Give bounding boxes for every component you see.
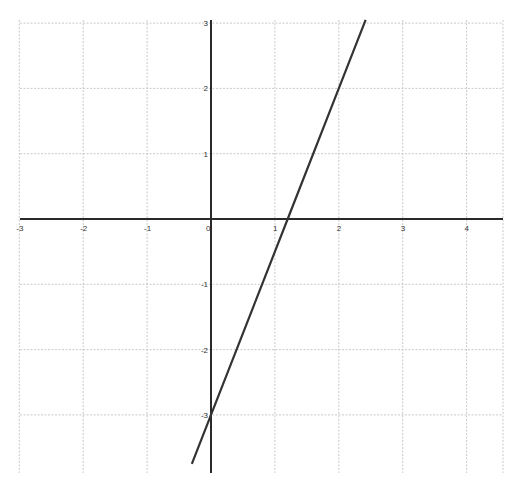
axes [20,20,503,473]
y-tick-label: 1 [204,150,209,159]
y-tick-label: -3 [201,411,209,420]
x-tick-label: -3 [16,224,24,233]
x-tick-label: 1 [273,224,278,233]
series-group [192,20,366,464]
y-tick-label: -1 [201,280,209,289]
y-tick-label: 3 [204,19,209,28]
x-tick-label: -1 [144,224,152,233]
grid-lines [19,20,503,473]
x-tick-label: -2 [80,224,88,233]
x-tick-label: 2 [337,224,342,233]
y-tick-label: -2 [201,346,209,355]
x-tick-label: 3 [401,224,406,233]
x-tick-label: 4 [465,224,470,233]
coordinate-plane: -3-2-101234-3-2-1123 [0,0,515,483]
line-series [192,20,366,464]
y-tick-label: 2 [204,84,209,93]
x-tick-label: 0 [206,224,211,233]
